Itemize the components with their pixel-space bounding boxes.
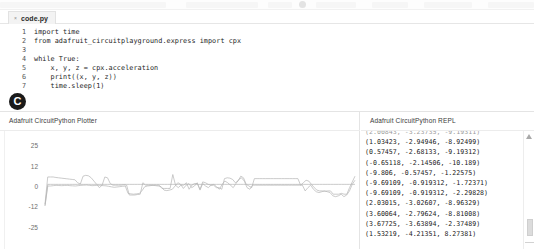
repl-line: (2.00843, -3.23735, -9.19311) [365,131,534,137]
repl-line: (-9.69109, -0.919312, -1.72371) [365,178,534,188]
code-editor[interactable]: 1 import time 2 from adafruit_circuitpla… [0,24,534,86]
close-icon[interactable]: × [14,16,17,21]
code-line-text: x, y, z = cpx.acceleration [34,64,158,72]
y-axis-tick: -25 [14,224,38,231]
repl-line: (1.03423, -2.94946, -8.92499) [365,137,534,147]
toolbar-button-ghost[interactable] [0,2,166,8]
repl-line: (3.67725, -3.63894, -2.37489) [365,219,534,229]
repl-line: (-9.69109, -0.919312, -2.29828) [365,188,534,198]
repl-pane[interactable]: Adafruit CircuitPython REPL (2.00843, -3… [361,112,534,249]
tab-label: code.py [21,15,48,22]
mu-editor-window: × code.py 1 import time 2 from adafruit_… [0,0,534,249]
code-line[interactable]: 5 x, y, z = cpx.acceleration [0,63,534,72]
repl-line: (-0.65118, -2.14506, -10.189) [365,158,534,168]
repl-line: (2.03015, -3.02607, -8.96329) [365,198,534,208]
y-axis-tick: -12 [14,202,38,209]
plot-area: 25 12 0 -12 -25 [0,131,360,249]
y-axis-tick: 25 [14,142,38,149]
line-number: 6 [0,73,34,81]
code-line[interactable]: 1 import time [0,27,534,36]
code-line-text: from adafruit_circuitplayground.express … [34,37,241,45]
repl-scrollbar[interactable] [523,131,534,249]
repl-line: (3.60064, -2.79624, -8.81008) [365,209,534,219]
code-line[interactable]: 3 [0,45,534,54]
code-line[interactable]: 4 while True: [0,54,534,63]
repl-line: (-9.806, -0.57457, -1.22575) [365,168,534,178]
line-number: 1 [0,28,34,36]
plot-series-z [45,178,355,206]
repl-line: (1.53219, -4.21351, 8.27381) [365,229,534,239]
code-line[interactable]: 6 print((x, y, z)) [0,72,534,81]
editor-tab-bar[interactable]: × code.py [0,11,534,24]
plotter-pane: Adafruit CircuitPython Plotter 25 12 0 -… [0,112,360,249]
plot-left-border [4,131,5,249]
line-number: 5 [0,64,34,72]
repl-output[interactable]: (2.00843, -3.23735, -9.19311)(1.03423, -… [361,131,534,249]
repl-line: (0.57457, -2.68133, -9.19312) [365,147,534,157]
line-number: 7 [0,82,34,90]
code-line-text: print((x, y, z)) [34,73,117,81]
toolbar-button-ghost[interactable] [424,2,472,8]
top-toolbar [0,0,534,10]
code-line[interactable]: 7 time.sleep(1) [0,81,534,90]
toolbar-button-ghost[interactable] [316,2,356,8]
line-number: 4 [0,55,34,63]
code-line-text: time.sleep(1) [34,82,104,90]
plotter-title: Adafruit CircuitPython Plotter [0,112,359,124]
scrollbar-end-rule [525,242,534,243]
y-axis-tick: 0 [14,183,38,190]
toolbar-button-ghost[interactable] [488,2,534,8]
code-line-text: import time [34,28,80,36]
code-line[interactable]: 2 from adafruit_circuitplayground.expres… [0,36,534,45]
tab-code-py[interactable]: × code.py [8,11,56,24]
toolbar-indicator-dot [299,1,306,8]
annotation-badge-c: C [9,93,26,110]
acceleration-plot [42,131,358,249]
line-number: 2 [0,37,34,45]
scroll-up-icon[interactable] [526,134,532,139]
y-axis-tick: 12 [14,163,38,170]
line-number: 3 [0,46,34,54]
scrollbar-thumb[interactable] [527,219,533,236]
toolbar-button-ghost[interactable] [268,2,292,8]
toolbar-button-ghost[interactable] [186,2,258,8]
toolbar-button-ghost[interactable] [372,2,408,8]
repl-title: Adafruit CircuitPython REPL [361,112,534,124]
code-line-text: while True: [34,55,80,63]
